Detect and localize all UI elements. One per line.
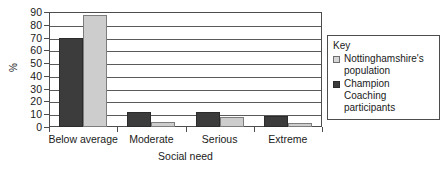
y-axis-tick-mark [44,76,49,77]
x-axis-tick-labels: Below averageModerateSeriousExtreme [49,133,322,149]
bar[interactable] [196,112,220,127]
x-axis-tick-mark [254,127,255,132]
bar[interactable] [127,112,151,127]
chart-legend: Key Nottinghamshire'spopulation Champion… [327,35,440,120]
bar-chart-figure: % 0102030405060708090 Below averageModer… [0,0,446,171]
bar-group [254,12,322,127]
y-axis-tick-label: 90 [14,7,42,17]
legend-item-label: Nottinghamshire'spopulation [344,53,424,77]
y-axis-tick-label: 50 [14,58,42,68]
bars-layer [49,12,322,127]
y-axis-tick-mark [44,50,49,51]
x-axis-tick-label: Extreme [268,133,307,146]
x-axis-tick-mark [117,127,118,132]
x-axis-tick-mark [186,127,187,132]
y-axis-tick-label: 10 [14,109,42,119]
y-axis-tick-mark [44,38,49,39]
bar[interactable] [151,122,175,127]
y-axis-tick-mark [44,101,49,102]
x-axis-tick-label: Moderate [129,133,173,146]
y-axis-tick-mark [44,89,49,90]
y-axis-tick-label: 70 [14,33,42,43]
bar[interactable] [264,116,288,127]
y-axis-tick-mark [44,12,49,13]
y-axis-tick-mark [44,63,49,64]
y-axis-tick-labels: 0102030405060708090 [14,6,42,132]
y-axis-tick-label: 60 [14,45,42,55]
legend-title: Key [333,40,434,52]
x-axis-title: Social need [49,150,322,162]
x-axis-tick-label: Below average [48,133,117,146]
x-axis-tick-mark [49,127,50,132]
x-axis-tick-mark [322,127,323,132]
bar[interactable] [59,38,83,127]
y-axis-tick-mark [44,114,49,115]
bar-group [186,12,254,127]
y-axis-tick-label: 40 [14,71,42,81]
bar[interactable] [220,117,244,127]
y-axis-tick-label: 30 [14,84,42,94]
legend-item-champion-coaching-participants[interactable]: Champion Coachingparticipants [333,78,434,114]
y-axis-tick-label: 0 [14,122,42,132]
y-axis-tick-label: 20 [14,96,42,106]
dark-swatch-icon [333,81,340,88]
legend-item-label: Champion Coachingparticipants [344,78,434,114]
light-swatch-icon [333,56,340,63]
x-axis-tick-label: Serious [202,133,238,146]
y-axis-tick-mark [44,25,49,26]
legend-item-nottinghamshire-population[interactable]: Nottinghamshire'spopulation [333,53,434,77]
bar[interactable] [288,123,312,127]
y-axis-tick-label: 80 [14,20,42,30]
bar-group [49,12,117,127]
bar[interactable] [83,15,107,127]
bar-group [117,12,185,127]
